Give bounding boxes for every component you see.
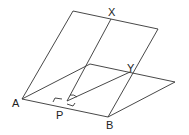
- lower-plane: [22, 64, 175, 117]
- right-angle-mark-1: [53, 98, 62, 102]
- label-a: A: [12, 97, 19, 109]
- right-angle-mark-2: [67, 103, 75, 106]
- label-b: B: [106, 119, 113, 131]
- angle-arc: [70, 95, 77, 97]
- label-y: Y: [127, 62, 134, 74]
- line-PX: [67, 19, 111, 101]
- planes-diagram: [0, 0, 189, 135]
- label-p: P: [56, 109, 63, 121]
- label-x: X: [108, 6, 115, 18]
